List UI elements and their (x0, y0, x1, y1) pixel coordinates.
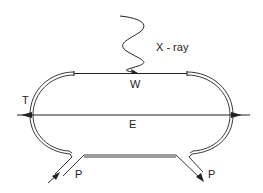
electron-beam-label: E (129, 118, 136, 130)
right-bend-tube (187, 71, 233, 157)
port-right-label: P (208, 168, 215, 180)
xray-wave (120, 16, 144, 73)
bottom-straight-section (84, 155, 176, 157)
right-arrow-icon (231, 112, 242, 118)
right-port (176, 155, 204, 182)
storage-ring-diagram: X - ray W T E P P (0, 0, 263, 193)
left-bend-tube (30, 71, 74, 157)
wiggler-label: W (130, 78, 141, 90)
tube-label: T (22, 94, 29, 106)
xray-label: X - ray (156, 41, 189, 53)
right-port-arrow-icon (196, 173, 204, 182)
port-left-label: P (75, 168, 82, 180)
left-arrow-icon (21, 112, 32, 118)
xray-arrow-icon (131, 69, 138, 73)
